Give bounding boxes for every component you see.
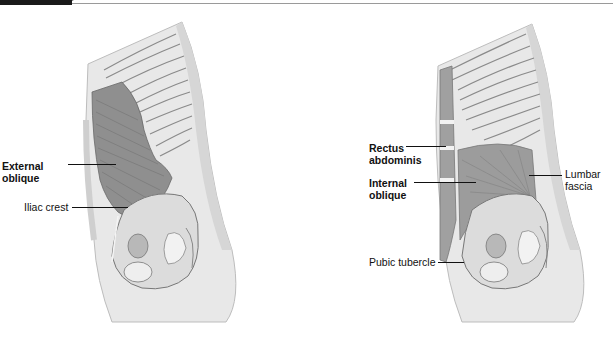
- label-iliac-crest: Iliac crest: [24, 201, 68, 213]
- label-internal-oblique-line1: Internal: [369, 177, 407, 189]
- leader-rectus-abdominis: [406, 146, 446, 147]
- label-rectus-abdominis-line2: abdominis: [369, 154, 422, 166]
- figure-external-oblique-view: External oblique Iliac crest: [0, 0, 300, 356]
- label-external-oblique-line1: External: [2, 160, 43, 172]
- label-lumbar-fascia: Lumbar fascia: [565, 168, 601, 192]
- leader-pubic-tubercle: [438, 262, 464, 263]
- label-lumbar-fascia-line2: fascia: [565, 180, 601, 192]
- leader-external-oblique: [68, 164, 116, 165]
- label-external-oblique: External oblique: [2, 160, 43, 184]
- label-internal-oblique: Internal oblique: [369, 177, 407, 201]
- label-pubic-tubercle: Pubic tubercle: [369, 256, 436, 268]
- figure-internal-oblique-view: Rectus abdominis Internal oblique Lumbar…: [300, 0, 613, 356]
- leader-internal-oblique: [414, 182, 476, 183]
- leader-lumbar-fascia: [529, 175, 562, 176]
- leader-iliac-crest: [72, 207, 128, 208]
- label-lumbar-fascia-line1: Lumbar: [565, 168, 601, 180]
- label-external-oblique-line2: oblique: [2, 172, 43, 184]
- label-internal-oblique-line2: oblique: [369, 189, 407, 201]
- torso-illustration-left: [0, 0, 300, 356]
- label-rectus-abdominis-line1: Rectus: [369, 142, 422, 154]
